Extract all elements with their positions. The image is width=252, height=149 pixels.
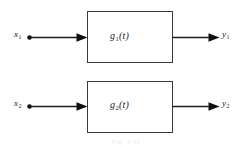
input-label-x2: x2 — [14, 99, 21, 110]
block-label-g2: g2(t) — [110, 100, 129, 111]
output-arrowhead-y2 — [209, 102, 220, 111]
output-label-y2: y2 — [222, 99, 229, 110]
block-label-g1: g1(t) — [110, 31, 129, 42]
output-arrowhead-y1 — [209, 33, 220, 42]
block-diagram-figure: x1 y1 g1(t) x2 y2 g2(t) Fig. 3-11 — [0, 0, 252, 149]
diagram-canvas — [0, 0, 252, 149]
block-rect-g2 — [88, 82, 173, 133]
figure-caption: Fig. 3-11 — [0, 138, 252, 146]
input-arrowhead-x2 — [77, 102, 88, 111]
block-rect-g1 — [88, 12, 173, 63]
input-label-x1: x1 — [14, 30, 21, 41]
input-arrowhead-x1 — [77, 33, 88, 42]
output-label-y1: y1 — [222, 30, 229, 41]
